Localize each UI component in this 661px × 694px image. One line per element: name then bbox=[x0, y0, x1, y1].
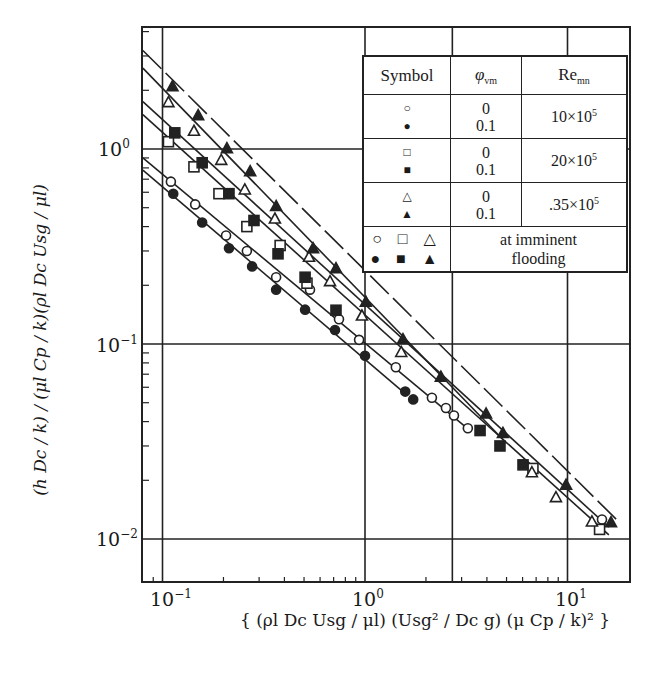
legend-re-value: .35×105 bbox=[522, 183, 628, 227]
triangle-filled-marker bbox=[221, 143, 232, 153]
legend-header-phi: φvm bbox=[451, 56, 522, 95]
legend-row-re10: ○ ● 0 0.1 10×105 bbox=[363, 95, 627, 139]
y-tick-label-0.01: 10−2 bbox=[96, 527, 138, 550]
triangle-open-marker bbox=[239, 184, 250, 194]
circle-open-marker bbox=[355, 335, 364, 344]
legend-re-value: 10×105 bbox=[522, 95, 628, 139]
legend-row-re35: △ ▲ 0 0.1 .35×105 bbox=[363, 183, 627, 227]
triangle-filled-marker bbox=[497, 427, 508, 437]
square-filled-marker bbox=[273, 249, 283, 259]
x-tick-label-0.1: 10−1 bbox=[150, 587, 192, 610]
legend-symbols-circle: ○ ● bbox=[363, 95, 451, 139]
circle-filled-marker bbox=[224, 244, 233, 253]
triangle-open-marker bbox=[188, 125, 199, 135]
triangle-filled-marker bbox=[245, 166, 256, 176]
legend-header-symbol: Symbol bbox=[363, 56, 451, 95]
y-tick-label-1: 100 bbox=[98, 137, 130, 160]
legend-symbols-square: □ ■ bbox=[363, 139, 451, 183]
circle-filled-marker bbox=[331, 325, 340, 334]
circle-filled-marker bbox=[272, 285, 281, 294]
circle-open-marker bbox=[166, 177, 175, 186]
triangle-filled-marker bbox=[193, 110, 204, 120]
legend-phi-values: 0 0.1 bbox=[451, 139, 522, 183]
circle-open-marker bbox=[242, 246, 251, 255]
square-filled-icon: ■ bbox=[364, 161, 450, 179]
circle-filled-icon: ● bbox=[364, 117, 450, 135]
y-tick-label-0.1: 10−1 bbox=[96, 333, 138, 356]
circle-open-marker bbox=[334, 315, 343, 324]
circle-filled-marker bbox=[401, 387, 410, 396]
x-axis-label: { (ρl Dc Usg / μl) (Usg² / Dc g) (μ Cp /… bbox=[240, 610, 610, 630]
legend-header-re: Remn bbox=[522, 56, 628, 95]
square-filled-marker bbox=[331, 305, 341, 315]
legend-phi-values: 0 0.1 bbox=[451, 95, 522, 139]
triangle-open-icon: △ bbox=[364, 187, 450, 205]
triangle-filled-marker bbox=[481, 408, 492, 418]
square-filled-marker bbox=[170, 128, 180, 138]
triangle-open-marker bbox=[550, 492, 561, 502]
legend-phi-values: 0 0.1 bbox=[451, 183, 522, 227]
x-tick-labels: 10−1 100 101 bbox=[150, 587, 587, 610]
square-filled-marker bbox=[300, 272, 310, 282]
triangle-filled-marker bbox=[435, 371, 446, 381]
triangle-filled-icon: ▲ bbox=[364, 205, 450, 223]
legend-header-row: Symbol φvm Remn bbox=[363, 56, 627, 95]
triangle-open-marker bbox=[586, 516, 597, 526]
square-open-marker bbox=[214, 189, 224, 199]
circle-open-marker bbox=[441, 403, 450, 412]
x-tick-label-1: 100 bbox=[352, 587, 384, 610]
circle-open-marker bbox=[427, 393, 436, 402]
circle-filled-marker bbox=[198, 218, 207, 227]
square-filled-marker bbox=[518, 460, 528, 470]
square-filled-marker bbox=[224, 189, 234, 199]
triangle-filled-marker bbox=[167, 81, 178, 91]
triangle-open-marker bbox=[216, 154, 227, 164]
legend-flooding-symbols: ○ □ △ ● ■ ▲ bbox=[363, 227, 451, 273]
square-filled-marker bbox=[197, 158, 207, 168]
circle-open-icon: ○ bbox=[364, 99, 450, 117]
circle-filled-marker bbox=[301, 305, 310, 314]
circle-filled-marker bbox=[169, 189, 178, 198]
square-filled-marker bbox=[249, 215, 259, 225]
circle-open-marker bbox=[463, 424, 472, 433]
circle-open-marker bbox=[272, 273, 281, 282]
y-axis-label: (h Dc / k) / (μl Cp / k)(ρl Dc Usg / μl) bbox=[30, 140, 50, 540]
square-filled-marker bbox=[475, 426, 485, 436]
circle-filled-marker bbox=[409, 395, 418, 404]
circle-open-marker bbox=[222, 231, 231, 240]
legend-table: Symbol φvm Remn ○ ● 0 0.1 10×105 □ ■ 0 0… bbox=[362, 55, 628, 273]
circle-open-marker bbox=[391, 363, 400, 372]
circle-filled-marker bbox=[248, 262, 257, 271]
circle-open-marker bbox=[597, 515, 606, 524]
y-tick-labels: 100 10−1 10−2 bbox=[96, 137, 138, 550]
flooding-open-symbols-icon: ○ □ △ bbox=[364, 229, 450, 249]
circle-open-marker bbox=[191, 200, 200, 209]
legend-symbols-triangle: △ ▲ bbox=[363, 183, 451, 227]
legend-row-flooding: ○ □ △ ● ■ ▲ at imminent flooding bbox=[363, 227, 627, 273]
x-tick-label-10: 101 bbox=[555, 587, 587, 610]
circle-open-marker bbox=[449, 411, 458, 420]
square-filled-marker bbox=[495, 441, 505, 451]
legend-flooding-label: at imminent flooding bbox=[451, 227, 628, 273]
circle-filled-marker bbox=[361, 351, 370, 360]
legend-re-value: 20×105 bbox=[522, 139, 628, 183]
flooding-filled-symbols-icon: ● ■ ▲ bbox=[364, 249, 450, 269]
legend-row-re20: □ ■ 0 0.1 20×105 bbox=[363, 139, 627, 183]
square-open-icon: □ bbox=[364, 143, 450, 161]
